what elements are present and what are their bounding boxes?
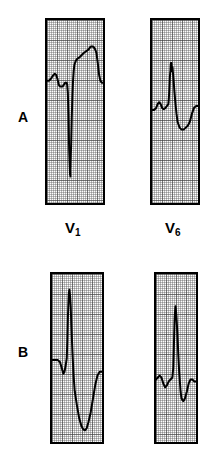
column-label-v1-text: V [65,219,75,236]
ecg-strip-a-v1 [45,18,105,205]
ecg-trace-b-v6 [156,274,196,442]
ecg-strip-b-v6 [154,272,198,444]
row-label-a: A [18,110,28,124]
column-label-v6-subscript: 6 [175,227,181,238]
column-label-v6: V6 [165,220,181,235]
row-label-b: B [18,345,28,359]
ecg-trace-a-v1 [47,20,103,203]
column-label-v1-subscript: 1 [75,227,81,238]
ecg-trace-b-v1 [52,274,102,442]
column-label-v6-text: V [165,219,175,236]
ecg-trace-a-v6 [152,20,198,203]
ecg-strip-b-v1 [50,272,104,444]
ecg-figure: A B V1 V6 [0,0,215,460]
ecg-strip-a-v6 [150,18,200,205]
column-label-v1: V1 [65,220,81,235]
